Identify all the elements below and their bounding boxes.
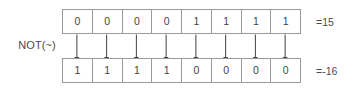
input-bit-7: 1 (271, 10, 301, 34)
input-bit-0: 0 (63, 10, 93, 34)
input-bit-3: 0 (152, 10, 182, 34)
input-bit-4: 1 (182, 10, 212, 34)
output-bit-4: 0 (182, 59, 212, 83)
input-bit-row: 00001111 (62, 9, 301, 34)
input-bit-5: 1 (212, 10, 242, 34)
output-bit-0: 1 (63, 59, 93, 83)
output-bit-row: 11110000 (62, 58, 301, 83)
output-bit-7: 0 (271, 59, 301, 83)
bitwise-not-diagram: NOT(~) 00001111 =15 11110000 =-16 (0, 0, 362, 89)
operation-label: NOT(~) (14, 38, 60, 52)
output-bit-6: 0 (242, 59, 272, 83)
output-bit-1: 1 (93, 59, 123, 83)
input-bit-2: 0 (123, 10, 153, 34)
output-bit-2: 1 (123, 59, 153, 83)
output-value-label: =-16 (316, 64, 337, 78)
output-bit-3: 1 (152, 59, 182, 83)
input-bit-1: 0 (93, 10, 123, 34)
input-bit-6: 1 (242, 10, 272, 34)
output-bit-5: 0 (212, 59, 242, 83)
input-value-label: =15 (316, 15, 334, 29)
